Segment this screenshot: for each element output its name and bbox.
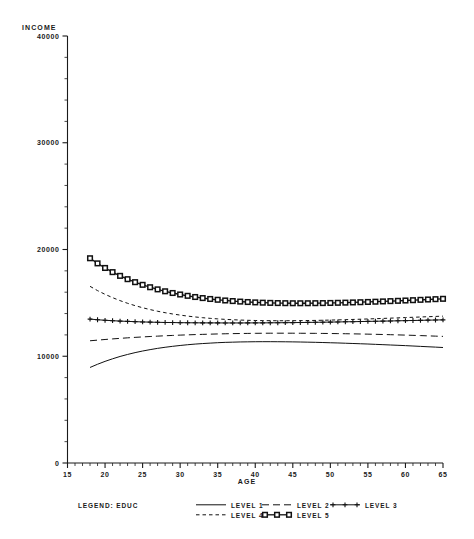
series-marker — [215, 321, 220, 326]
series-marker — [287, 513, 292, 518]
x-tick-label: 55 — [363, 471, 372, 478]
series-marker — [433, 297, 438, 302]
series-marker — [178, 292, 183, 297]
series-marker — [343, 300, 348, 305]
series-marker — [381, 299, 386, 304]
x-tick-label: 50 — [326, 471, 335, 478]
series-marker — [148, 285, 153, 290]
series-marker — [306, 301, 311, 306]
series-marker — [260, 320, 265, 325]
x-axis-title: AGE — [238, 478, 256, 485]
x-axis-tick-labels: 1520253035404550556065 — [63, 471, 448, 478]
series-marker — [426, 318, 431, 323]
y-tick-label: 30000 — [37, 139, 59, 146]
series-marker — [110, 318, 115, 323]
series-marker — [373, 299, 378, 304]
series-marker — [140, 283, 145, 288]
legend-item-level-5: LEVEL 5 — [262, 512, 330, 519]
series-marker — [148, 320, 153, 325]
series-marker — [230, 299, 235, 304]
y-axis-ticks — [63, 36, 68, 463]
series-marker — [403, 298, 408, 303]
series-5 — [88, 256, 446, 306]
y-tick-label: 0 — [55, 460, 60, 467]
series-marker — [238, 299, 243, 304]
series-marker — [200, 296, 205, 301]
series-marker — [381, 319, 386, 324]
series-marker — [358, 300, 363, 305]
y-tick-label: 20000 — [37, 246, 59, 253]
series-marker — [283, 301, 288, 306]
series-marker — [433, 318, 438, 323]
series-marker — [388, 299, 393, 304]
series-marker — [215, 297, 220, 302]
series-marker — [313, 301, 318, 306]
series-marker — [358, 319, 363, 324]
series-marker — [133, 319, 138, 324]
series-marker — [125, 277, 130, 282]
series-marker — [366, 300, 371, 305]
series-marker — [336, 301, 341, 306]
series-marker — [103, 266, 108, 271]
series-marker — [170, 291, 175, 296]
x-tick-label: 15 — [63, 471, 72, 478]
series-marker — [133, 280, 138, 285]
x-tick-label: 30 — [176, 471, 185, 478]
series-marker — [193, 295, 198, 300]
series-marker — [373, 319, 378, 324]
series-marker — [208, 297, 213, 302]
series-marker — [95, 317, 100, 322]
series-marker — [155, 287, 160, 292]
series-marker — [253, 320, 258, 325]
series-marker — [396, 299, 401, 304]
series-marker — [140, 320, 145, 325]
series-marker — [343, 502, 348, 507]
series-marker — [328, 301, 333, 306]
series-marker — [418, 318, 423, 323]
series-marker — [245, 321, 250, 326]
series-marker — [268, 301, 273, 306]
series-marker — [291, 301, 296, 306]
series-marker — [185, 320, 190, 325]
series-marker — [350, 319, 355, 324]
series-marker — [396, 318, 401, 323]
series-marker — [321, 301, 326, 306]
legend-label: LEVEL 2 — [297, 502, 330, 509]
x-tick-label: 35 — [213, 471, 222, 478]
series-marker — [118, 274, 123, 279]
series-2 — [90, 333, 443, 341]
series-marker — [411, 298, 416, 303]
series-marker — [355, 502, 360, 507]
series-marker — [163, 289, 168, 294]
series-marker — [426, 297, 431, 302]
y-axis-tick-labels: 010000200003000040000 — [37, 33, 59, 467]
series-marker — [253, 300, 258, 305]
series-marker — [238, 321, 243, 326]
x-tick-label: 45 — [288, 471, 297, 478]
series-marker — [155, 320, 160, 325]
y-tick-label: 10000 — [37, 353, 59, 360]
series-marker — [351, 300, 356, 305]
series-marker — [411, 318, 416, 323]
legend-item-level-4: LEVEL 4 — [196, 512, 264, 519]
series-marker — [163, 320, 168, 325]
legend-label: LEVEL 4 — [231, 512, 264, 519]
series-marker — [260, 300, 265, 305]
series-marker — [366, 319, 371, 324]
x-tick-label: 20 — [101, 471, 110, 478]
legend-label: LEVEL 3 — [365, 502, 398, 509]
legend-label: LEVEL 1 — [231, 502, 264, 509]
x-tick-label: 60 — [401, 471, 410, 478]
series-marker — [88, 317, 93, 322]
x-tick-label: 65 — [439, 471, 448, 478]
plot-area — [88, 256, 446, 368]
legend-item-level-2: LEVEL 2 — [262, 502, 330, 509]
series-marker — [245, 300, 250, 305]
series-marker — [230, 321, 235, 326]
series-line — [90, 258, 443, 303]
series-marker — [388, 319, 393, 324]
series-marker — [178, 320, 183, 325]
series-marker — [223, 321, 228, 326]
series-1 — [90, 342, 443, 368]
x-tick-label: 40 — [251, 471, 260, 478]
